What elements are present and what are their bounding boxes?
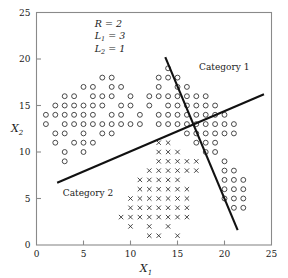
marker-x (147, 178, 151, 182)
category-1-label: Category 1 (199, 62, 249, 72)
marker-circle (72, 103, 77, 108)
marker-circle (231, 122, 236, 127)
marker-circle (194, 103, 199, 108)
marker-circle (109, 84, 114, 89)
marker-x (175, 178, 179, 182)
marker-x (147, 196, 151, 200)
marker-circle (231, 187, 236, 192)
marker-circle (62, 122, 67, 127)
category-2-label: Category 2 (63, 188, 113, 198)
marker-circle (184, 84, 189, 89)
marker-circle (72, 122, 77, 127)
marker-x (175, 187, 179, 191)
marker-circle (81, 112, 86, 117)
param-L1: L1 = 3 (94, 30, 126, 43)
marker-x (175, 206, 179, 210)
marker-circle (62, 112, 67, 117)
y-tick-label: 5 (25, 194, 31, 204)
marker-circle (147, 94, 152, 99)
marker-x (157, 215, 161, 219)
marker-x (157, 150, 161, 154)
marker-x (138, 196, 142, 200)
boundary-line-2 (57, 94, 264, 182)
marker-circle (81, 103, 86, 108)
marker-x (138, 206, 142, 210)
marker-x (185, 187, 189, 191)
marker-circle (194, 112, 199, 117)
marker-x (147, 206, 151, 210)
marker-circle (100, 103, 105, 108)
marker-circle (166, 103, 171, 108)
marker-circle (119, 112, 124, 117)
marker-circle (166, 122, 171, 127)
marker-circle (241, 187, 246, 192)
plot-svg: 05101520250510152025 R = 2L1 = 3L2 = 1 C… (0, 0, 288, 278)
marker-x (185, 206, 189, 210)
marker-x (166, 150, 170, 154)
x-tick-label: 25 (266, 249, 278, 259)
x-tick-label: 10 (125, 249, 137, 259)
boundary-line-1 (165, 57, 237, 230)
marker-circle (156, 112, 161, 117)
marker-circle (100, 122, 105, 127)
marker-circle (203, 94, 208, 99)
marker-circle (166, 112, 171, 117)
marker-circle (53, 103, 58, 108)
marker-circle (222, 112, 227, 117)
marker-x (138, 215, 142, 219)
marker-x (128, 206, 132, 210)
marker-circle (119, 84, 124, 89)
marker-circle (222, 177, 227, 182)
y-axis-title: X2 (10, 122, 24, 137)
marker-circle (222, 131, 227, 136)
marker-x (185, 168, 189, 172)
marker-circle (194, 94, 199, 99)
marker-circle (62, 150, 67, 155)
marker-circle (166, 75, 171, 80)
marker-x (175, 168, 179, 172)
marker-circle (62, 103, 67, 108)
category-labels-layer: Category 1Category 2 (63, 62, 250, 198)
marker-circle (81, 150, 86, 155)
marker-circle (222, 122, 227, 127)
marker-x (175, 234, 179, 238)
marker-x (157, 187, 161, 191)
marker-circle (90, 112, 95, 117)
marker-circle (175, 122, 180, 127)
marker-circle (194, 140, 199, 145)
marker-circle (81, 84, 86, 89)
marker-x (138, 187, 142, 191)
marker-circle (241, 196, 246, 201)
param-L1-symbol: L (94, 30, 101, 41)
y-tick-label: 10 (19, 147, 31, 157)
x-tick-label: 5 (81, 249, 87, 259)
marker-x (119, 215, 123, 219)
marker-circle (72, 112, 77, 117)
marker-x (147, 224, 151, 228)
marker-x (138, 178, 142, 182)
marker-circle (231, 205, 236, 210)
marker-circle (128, 103, 133, 108)
marker-x (175, 196, 179, 200)
marker-circle (81, 140, 86, 145)
scatter-plot-figure: 05101520250510152025 R = 2L1 = 3L2 = 1 C… (0, 0, 288, 278)
series-2-markers (119, 141, 199, 238)
marker-x (166, 178, 170, 182)
data-markers-layer (43, 66, 245, 238)
marker-x (128, 215, 132, 219)
marker-circle (147, 103, 152, 108)
marker-circle (53, 112, 58, 117)
marker-circle (137, 112, 142, 117)
marker-x (194, 159, 198, 163)
param-L2: L2 = 1 (94, 43, 126, 56)
marker-x (147, 234, 151, 238)
y-axis-title-sub: 2 (18, 129, 24, 137)
marker-x (185, 159, 189, 163)
marker-circle (222, 168, 227, 173)
marker-circle (203, 131, 208, 136)
y-tick-label: 0 (25, 240, 31, 250)
marker-circle (90, 103, 95, 108)
marker-circle (213, 131, 218, 136)
marker-x (157, 234, 161, 238)
marker-x (166, 215, 170, 219)
